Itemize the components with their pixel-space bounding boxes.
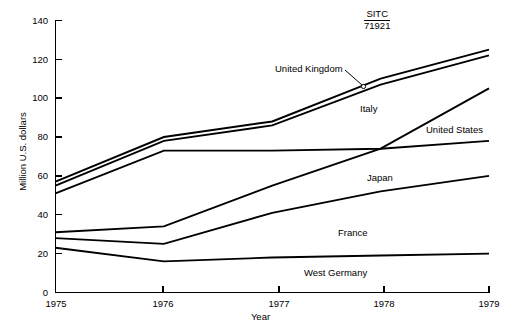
united-kingdom-leader-dot [361,84,365,88]
x-tick-label-1976: 1976 [142,299,184,309]
y-tick-label-0: 0 [18,288,48,298]
sitc-annotation: SITC 71921 [364,9,390,32]
series-line-west-germany [56,248,490,262]
series-line-united-kingdom [56,50,490,182]
x-tick-marks [56,286,490,293]
series-label-japan: Japan [367,173,393,183]
x-tick-label-1975: 1975 [35,299,77,309]
line-chart: 0 20 40 60 80 100 120 140 1975 1976 1977… [0,0,521,328]
sitc-code: 71921 [364,20,390,32]
series-line-japan [56,88,490,232]
series-label-italy: Italy [360,104,377,114]
y-tick-marks [56,20,63,292]
y-tick-label-20: 20 [18,249,48,259]
united-kingdom-leader-line [345,70,362,85]
x-axis-title: Year [0,311,521,322]
series-label-united-kingdom: United Kingdom [275,64,343,74]
series-label-west-germany: West Germany [304,268,367,278]
plot-area [0,0,521,328]
sitc-label: SITC [366,8,388,19]
x-tick-label-1979: 1979 [468,299,510,309]
y-tick-label-120: 120 [18,55,48,65]
y-axis-title: Million U.S. dollars [17,92,28,212]
x-tick-label-1977: 1977 [258,299,300,309]
y-tick-label-140: 140 [18,16,48,26]
series-label-united-states: United States [426,125,483,135]
x-tick-label-1978: 1978 [363,299,405,309]
series-label-france: France [338,228,368,238]
